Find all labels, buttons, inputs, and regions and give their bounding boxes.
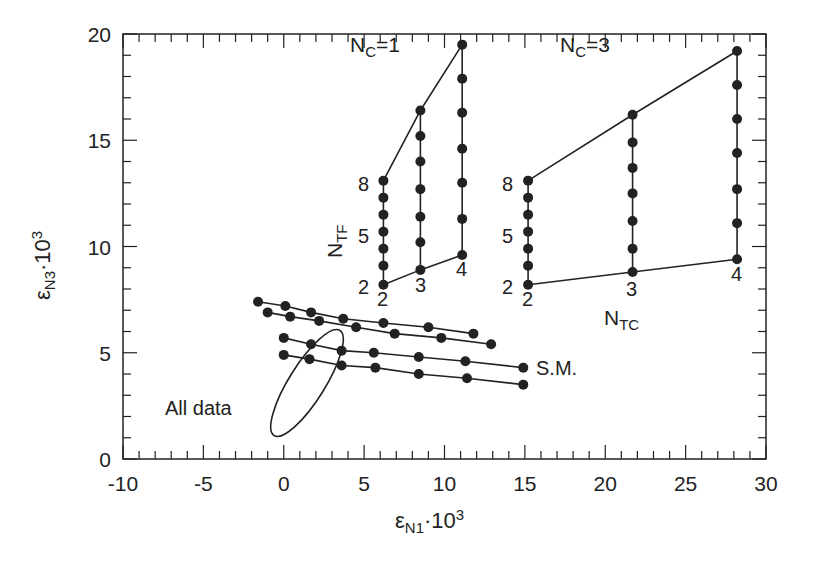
data-point [457,144,467,154]
y-tick-label: 0 [99,448,111,471]
data-point [628,244,638,254]
svg-text:3: 3 [415,274,426,296]
data-point [378,227,388,237]
data-point [370,363,380,373]
data-point [457,214,467,224]
data-point [457,74,467,84]
y-tick-labels: 05101520 [88,23,111,471]
data-point [628,163,638,173]
data-point [390,329,400,339]
data-point [415,184,425,194]
nc3-label: NC=3 [560,33,610,60]
data-point [523,244,533,254]
data-point [518,380,528,390]
svg-text:4: 4 [456,258,467,280]
nc1-label: NC=1 [350,33,400,60]
x-tick-labels: -10-5051015202530 [108,472,778,495]
data-point [415,212,425,222]
data-point [378,210,388,220]
data-point [314,316,324,326]
plot-frame [123,34,766,459]
data-point [732,46,742,56]
x-axis-label: εN1·103 [395,506,464,536]
all-data-ellipse [259,321,355,445]
data-point [351,322,361,332]
data-point [378,261,388,271]
ntf-label: NTF [323,225,350,259]
y-tick-label: 10 [88,236,111,259]
data-point [338,314,348,324]
data-point [732,80,742,90]
svg-text:2: 2 [358,276,369,298]
x-tick-label: -5 [194,472,213,495]
data-point [457,108,467,118]
data-series [253,40,742,390]
data-point [628,216,638,226]
data-point [457,40,467,50]
data-point [518,363,528,373]
y-tick-label: 5 [99,342,111,365]
data-point [280,301,290,311]
data-point [415,106,425,116]
ntc-label: NTC [604,306,639,333]
data-point [378,193,388,203]
data-point [628,137,638,147]
data-point [369,348,379,358]
data-point [462,373,472,383]
data-point [628,188,638,198]
ntf-tick-labels-nc1: 8 5 2 [358,173,369,298]
data-point [415,237,425,247]
data-point [523,176,533,186]
data-point [378,318,388,328]
svg-text:4: 4 [731,263,742,285]
data-point [628,110,638,120]
x-tick-label: 5 [358,472,370,495]
x-tick-label: 25 [674,472,697,495]
data-point [732,114,742,124]
data-point [523,210,533,220]
data-point [523,193,533,203]
svg-text:2: 2 [522,288,533,310]
svg-text:3: 3 [626,278,637,300]
ntf-tick-labels-nc3: 8 5 2 [502,173,513,298]
svg-text:2: 2 [377,288,388,310]
data-point [457,178,467,188]
all-data-label: All data [165,397,233,419]
data-point [732,184,742,194]
data-point [415,131,425,141]
data-point [628,267,638,277]
data-point [523,227,533,237]
x-tick-label: 10 [433,472,456,495]
svg-text:2: 2 [502,276,513,298]
data-point [468,329,478,339]
data-point [732,148,742,158]
x-tick-label: -10 [108,472,138,495]
data-point [279,350,289,360]
data-point [304,354,314,364]
data-point [414,369,424,379]
x-tick-label: 0 [278,472,290,495]
svg-text:5: 5 [502,225,513,247]
data-point [253,297,263,307]
data-point [486,339,496,349]
x-tick-label: 15 [513,472,536,495]
svg-text:5: 5 [358,225,369,247]
data-point [460,356,470,366]
data-point [423,322,433,332]
y-tick-label: 20 [88,23,111,46]
data-point [732,218,742,228]
x-tick-label: 30 [754,472,777,495]
data-point [378,176,388,186]
sm-label: S.M. [536,357,577,379]
svg-text:8: 8 [358,173,369,195]
data-point [285,312,295,322]
data-point [378,244,388,254]
y-axis-label: εN3·103 [28,231,58,300]
data-point [263,307,273,317]
data-point [414,352,424,362]
x-tick-label: 20 [594,472,617,495]
chart: -10-5051015202530 05101520 εN1·103 εN3·1… [0,0,816,564]
data-point [436,333,446,343]
axis-ticks [123,34,766,459]
svg-text:8: 8 [502,173,513,195]
